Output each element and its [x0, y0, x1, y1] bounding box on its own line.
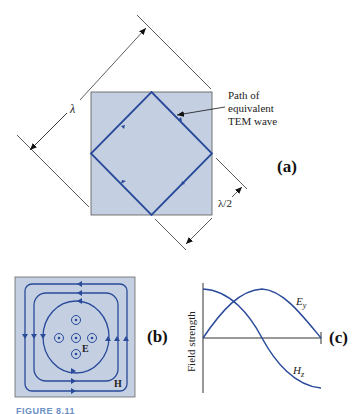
dimension-line-half-lambda: [232, 187, 242, 197]
figure-canvas: λ Path of equivalent TEM wave λ/2 (a): [0, 0, 361, 414]
panel-label-c: (c): [329, 328, 348, 347]
panel-a: λ Path of equivalent TEM wave λ/2 (a): [17, 15, 297, 250]
e-field-label: E: [82, 343, 89, 354]
annotation-line-2: equivalent: [228, 102, 274, 114]
annotation-line-3: TEM wave: [228, 115, 277, 127]
extension-line: [216, 158, 247, 189]
h-field-label: H: [114, 378, 122, 389]
ey-label: Ey: [295, 295, 307, 310]
extension-line: [137, 15, 211, 89]
lambda-label: λ: [69, 102, 75, 116]
extension-line: [17, 135, 89, 207]
dimension-line-half-lambda: [186, 218, 212, 244]
panel-label-b: (b): [147, 327, 168, 346]
panel-b: E H (b): [15, 277, 168, 397]
half-lambda-label: λ/2: [218, 197, 232, 209]
ey-curve: [203, 289, 321, 338]
panel-c: Ey Hz Field strength (c): [185, 283, 348, 393]
dimension-line-lambda: [80, 28, 146, 100]
dimension-line-lambda: [30, 113, 67, 150]
extension-line: [155, 219, 186, 250]
annotation-line-1: Path of: [228, 89, 260, 101]
waveguide-cross-section: [91, 92, 212, 215]
panel-label-a: (a): [277, 157, 297, 176]
y-axis-label: Field strength: [185, 311, 197, 372]
figure-caption: FIGURE 8.11: [16, 406, 75, 414]
